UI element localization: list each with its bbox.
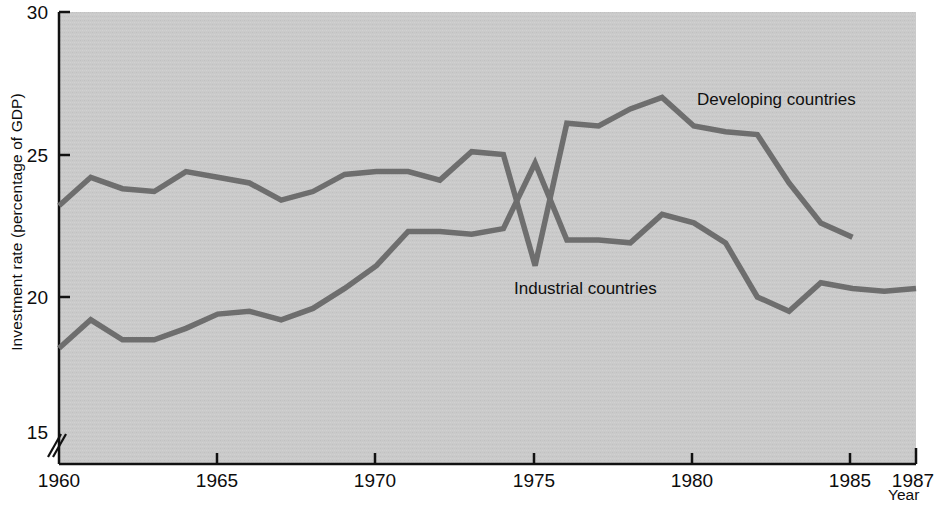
investment-rate-chart: Investment rate (percentage of GDP) Year… bbox=[0, 0, 940, 508]
x-tick-label-1960: 1960 bbox=[38, 470, 80, 492]
y-tick-label-15: 15 bbox=[8, 422, 48, 444]
series-label-industrial-countries: Industrial countries bbox=[514, 279, 657, 299]
x-tick-label-1970: 1970 bbox=[354, 470, 396, 492]
plot-area bbox=[0, 0, 940, 508]
y-axis-title: Investment rate (percentage of GDP) bbox=[8, 52, 26, 392]
series-label-developing-countries: Developing countries bbox=[697, 90, 856, 110]
y-tick-label-25: 25 bbox=[8, 145, 48, 167]
x-tick-label-1985: 1985 bbox=[829, 470, 871, 492]
x-tick-label-1987: 1987 bbox=[892, 470, 934, 492]
y-tick-label-30: 30 bbox=[8, 2, 48, 24]
x-tick-label-1980: 1980 bbox=[671, 470, 713, 492]
y-tick-label-20: 20 bbox=[8, 287, 48, 309]
x-tick-label-1965: 1965 bbox=[196, 470, 238, 492]
plot-background bbox=[59, 12, 916, 464]
x-tick-label-1975: 1975 bbox=[513, 470, 555, 492]
